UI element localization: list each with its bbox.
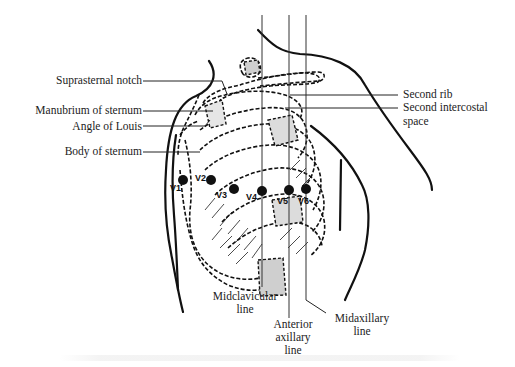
electrode-v2 [206,175,216,185]
electrode-v4 [257,186,267,196]
label-second-intercostal-1: Second intercostal [403,101,488,114]
label-second-intercostal-2: space [403,115,429,128]
electrode-v6 [301,184,311,194]
electrode-label-v4: V4 [246,192,257,202]
electrode-v3 [229,184,239,194]
electrode-label-v5: V5 [277,196,288,206]
label-midaxillary-1: Midaxillary [322,312,402,325]
electrode-v5 [284,185,294,195]
electrode-label-v6: V6 [298,196,309,206]
label-midaxillary-2: line [322,325,402,338]
electrode-label-v3: V3 [216,190,227,200]
electrode-label-v2: V2 [195,173,206,183]
label-midclavicular-1: Midclavicular [200,290,290,303]
sternum-shading [205,60,303,296]
electrode-label-v1: V1 [170,183,181,193]
label-anterior-axillary-1: Anterior [258,318,328,331]
label-manubrium: Manubrium of sternum [35,104,142,117]
label-second-rib: Second rib [403,88,453,101]
label-angle-of-louis: Angle of Louis [72,120,142,133]
label-body-of-sternum: Body of sternum [65,145,142,158]
label-anterior-axillary-2: axillary [258,331,328,344]
label-suprasternal-notch: Suprasternal notch [56,74,142,87]
label-midclavicular-2: line [200,303,290,316]
faint-caption-bleedthrough [60,355,460,361]
